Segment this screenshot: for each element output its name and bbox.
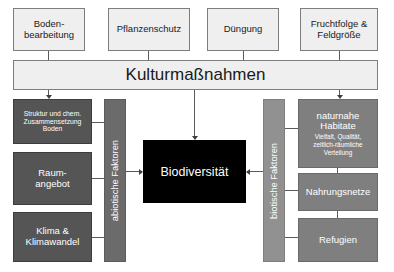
node-bodenstruktur-line-2: Zusammensetzung: [24, 118, 82, 126]
node-habitate-sub-3: Verteilung: [324, 149, 352, 156]
connector-nahrungsnetze-spine: [285, 190, 299, 191]
node-klima-klimawandel[interactable]: Klima & Klimawandel: [13, 212, 92, 262]
node-duengung[interactable]: Düngung: [207, 8, 279, 51]
node-raumangebot[interactable]: Raum- angebot: [13, 152, 92, 205]
node-nahrungsnetze-line-1: Nahrungsnetze: [306, 187, 370, 198]
node-refugien[interactable]: Refugien: [298, 218, 378, 262]
spine-biotische-faktoren-label: biotische Faktoren: [269, 143, 279, 219]
connector-refugien-spine: [285, 237, 299, 238]
node-bodenstruktur-line-3: Boden: [43, 125, 63, 133]
node-naturnahe-habitate[interactable]: naturnahe Habitate Vielfalt, Qualität, z…: [298, 99, 378, 168]
node-refugien-line-1: Refugien: [319, 235, 357, 246]
node-kulturmassnahmen-banner[interactable]: Kulturmaßnahmen: [13, 60, 378, 90]
node-fruchtfolge-line-1: Fruchtfolge &: [311, 19, 368, 30]
node-pflanzenschutz[interactable]: Pflanzenschutz: [108, 8, 190, 51]
connector-habitate-spine: [285, 128, 299, 129]
node-biodiversitaet[interactable]: Biodiversität: [143, 140, 246, 203]
node-raumangebot-line-2: angebot: [35, 179, 69, 190]
node-nahrungsnetze[interactable]: Nahrungsnetze: [298, 173, 378, 211]
connector-banner-biodiversitaet: [194, 90, 195, 137]
node-bodenstruktur[interactable]: Struktur und chem. Zusammensetzung Boden: [13, 99, 92, 144]
node-bodenstruktur-line-1: Struktur und chem.: [24, 110, 81, 118]
node-bodenbearbeitung-line-1: Boden-: [34, 19, 65, 30]
node-fruchtfolge[interactable]: Fruchtfolge & Feldgröße: [300, 8, 378, 51]
connector-abiotic-spine-biodiversitaet: [126, 171, 140, 172]
spine-biotische-faktoren[interactable]: biotische Faktoren: [263, 99, 285, 262]
connector-biotic-spine-biodiversitaet: [250, 171, 264, 172]
connector-bodenbearbeitung-banner: [48, 51, 49, 60]
node-bodenbearbeitung[interactable]: Boden- bearbeitung: [13, 8, 85, 51]
node-duengung-line-1: Düngung: [224, 24, 263, 35]
arrowhead-biotic-biodiversitaet: [246, 169, 250, 175]
connector-fruchtfolge-banner: [339, 51, 340, 60]
node-habitate-sub-1: Vielfalt, Qualität,: [315, 133, 361, 140]
node-bodenbearbeitung-line-2: bearbeitung: [24, 30, 74, 41]
spine-abiotische-faktoren-label: abiotische Faktoren: [110, 140, 120, 221]
biodiversity-influence-diagram: Boden- bearbeitung Pflanzenschutz Düngun…: [0, 0, 394, 272]
node-habitate-line-2: Habitate: [320, 121, 355, 132]
node-fruchtfolge-line-2: Feldgröße: [317, 30, 360, 41]
node-biodiversitaet-label: Biodiversität: [160, 165, 228, 179]
node-klima-line-2: Klimawandel: [26, 237, 80, 248]
kulturmassnahmen-label: Kulturmaßnahmen: [126, 65, 266, 84]
node-habitate-sub-2: zeitlich-räumliche: [313, 141, 362, 148]
spine-abiotische-faktoren[interactable]: abiotische Faktoren: [104, 99, 126, 262]
node-pflanzenschutz-line-1: Pflanzenschutz: [117, 24, 181, 35]
connector-pflanzenschutz-banner: [148, 51, 149, 60]
node-raumangebot-line-1: Raum-: [38, 168, 67, 179]
connector-duengung-banner: [243, 51, 244, 60]
